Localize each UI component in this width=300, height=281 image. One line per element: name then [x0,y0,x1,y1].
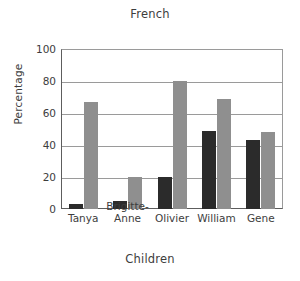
x-tick-label-line: Gene [247,212,275,224]
x-tick-label-tanya: Tanya [68,212,98,224]
gridline-60 [62,114,282,115]
x-tick-label-brigitte-anne: Brigitte-Anne [106,200,149,224]
x-tick-label-gene: Gene [247,212,275,224]
y-tick-label-80: 80 [16,75,56,87]
x-tick-label-william: William [197,212,235,224]
y-tick-label-60: 60 [16,107,56,119]
y-axis-title: Percentage [12,44,24,144]
x-tick-label-olivier: Olivier [155,212,189,224]
y-tick-label-40: 40 [16,139,56,151]
plot-area [61,49,283,209]
x-tick-label-line: William [197,212,235,224]
x-axis-title: Children [0,252,300,266]
gridline-80 [62,82,282,83]
gridline-20 [62,178,282,179]
y-tick-label-0: 0 [16,203,56,215]
x-tick-label-line: Brigitte- [106,200,149,212]
chart-title: French [0,7,300,21]
y-tick-label-100: 100 [16,43,56,55]
x-tick-label-line: Tanya [68,212,98,224]
x-tick-label-line: Anne [106,212,149,224]
chart-container: French Percentage 020406080100 TanyaBrig… [0,0,300,281]
x-axis-tick-labels: TanyaBrigitte-AnneOlivierWilliamGene [61,212,283,246]
y-tick-label-20: 20 [16,171,56,183]
gridline-40 [62,146,282,147]
x-tick-label-line: Olivier [155,212,189,224]
